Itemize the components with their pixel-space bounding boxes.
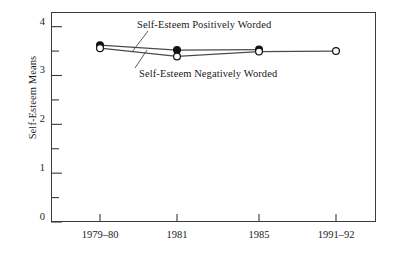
- x-tick-label-1981: 1981: [167, 230, 188, 241]
- plot-frame: [51, 12, 376, 222]
- y-axis-tick-labels: 4 3 2 1 0: [27, 0, 45, 258]
- x-tick-label-1991-92: 1991–92: [318, 230, 355, 241]
- y-tick-label-2: 2: [29, 114, 45, 125]
- annotation-negatively-worded: Self-Esteem Negatively Worded: [139, 69, 277, 80]
- y-tick-label-4: 4: [29, 17, 45, 28]
- y-tick-label-3: 3: [29, 65, 45, 76]
- chart-container: Self-Esteem Means 4 3 2 1 0 1979–80 1981…: [0, 0, 399, 258]
- annotation-positively-worded: Self-Esteem Positively Worded: [137, 20, 271, 31]
- x-axis-tick-labels: 1979–80 1981 1985 1991–92: [0, 230, 399, 246]
- x-tick-label-1979-80: 1979–80: [82, 230, 119, 241]
- y-tick-label-1: 1: [29, 163, 45, 174]
- y-tick-label-0: 0: [29, 212, 45, 223]
- x-tick-label-1985: 1985: [249, 230, 270, 241]
